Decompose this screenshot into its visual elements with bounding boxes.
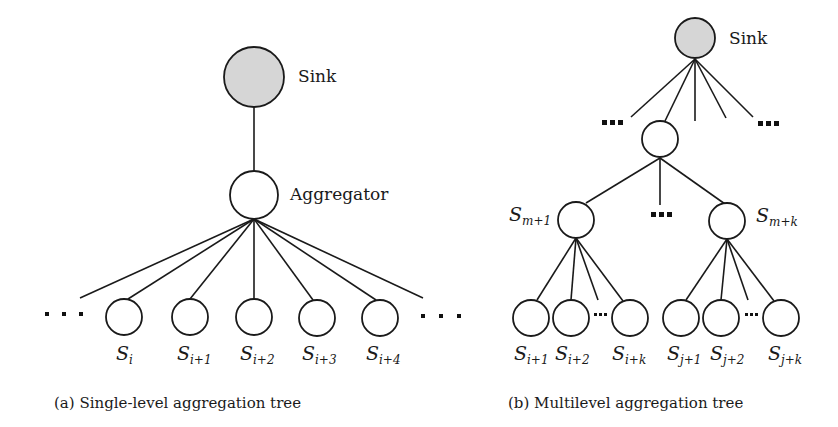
sensor-node-si1	[172, 299, 208, 335]
label-b-sik: Si+k	[612, 342, 646, 367]
leaf-sik	[612, 300, 648, 336]
edge-sink-intermediate	[665, 59, 695, 121]
label-b-si2: Si+2	[555, 342, 590, 367]
edge-aggregator-si	[128, 219, 254, 299]
aggregator-label: Aggregator	[289, 184, 389, 204]
sensor-node-si2	[236, 299, 272, 335]
edge-sm1-partial	[576, 238, 598, 300]
label-smk: Sm+k	[756, 204, 798, 229]
edge-aggregator-left-outer	[80, 219, 254, 298]
ellipsis-leaves-right	[745, 313, 758, 316]
leaf-sj2	[703, 300, 739, 336]
edge-sink-right1	[695, 59, 726, 118]
ellipsis-leaves-left	[594, 313, 607, 316]
label-si3: Si+3	[302, 342, 337, 367]
label-b-sj2: Sj+2	[710, 342, 744, 367]
multilevel-tree: Sink Sm+1 Sm+k Si+1 Si+2 Si+k Sj+1 Sj+2 …	[508, 18, 802, 412]
ellipsis-sink-left	[602, 120, 623, 125]
label-si2: Si+2	[240, 342, 275, 367]
label-b-sjk: Sj+k	[768, 342, 802, 367]
edge-smk-partial	[727, 239, 748, 300]
ellipsis-left	[45, 312, 83, 316]
aggregator-node	[230, 171, 278, 219]
ellipsis-right	[421, 314, 461, 318]
ellipsis-cluster-heads	[651, 212, 672, 217]
sensor-node-si4	[362, 300, 398, 336]
edge-aggregator-si3	[254, 219, 313, 300]
label-b-sj1: Sj+1	[667, 342, 701, 367]
edge-intermediate-smk	[660, 158, 725, 204]
intermediate-node	[642, 121, 678, 157]
sink-node-b	[675, 18, 715, 58]
edge-smk-sj1	[686, 239, 727, 300]
edge-smk-sjk	[727, 239, 774, 301]
label-sm1: Sm+1	[509, 203, 551, 228]
leaf-si1	[513, 300, 549, 336]
label-si: Si	[116, 342, 133, 367]
leaf-si2	[553, 300, 589, 336]
edge-aggregator-si4	[254, 219, 376, 300]
sink-label-b: Sink	[729, 28, 768, 48]
edge-intermediate-sm1	[586, 158, 660, 203]
label-b-si1: Si+1	[514, 342, 549, 367]
sensor-node-si	[106, 299, 142, 335]
label-si4: Si+4	[366, 342, 401, 367]
edge-smk-sj2	[721, 239, 727, 300]
edge-sm1-si1	[537, 238, 576, 300]
edge-sm1-sik	[576, 238, 623, 301]
single-level-tree: Sink Aggregator Si Si+1 Si+2 Si+3 Si+4 (…	[45, 47, 461, 412]
edge-sink-right-outer	[695, 59, 753, 117]
leaf-sjk	[763, 300, 799, 336]
edge-aggregator-si1	[190, 219, 254, 299]
aggregation-tree-figure: Sink Aggregator Si Si+1 Si+2 Si+3 Si+4 (…	[0, 0, 838, 427]
ellipsis-sink-right	[758, 121, 779, 126]
sensor-node-si3	[299, 300, 335, 336]
cluster-head-sm1	[558, 202, 594, 238]
edge-sm1-si2	[571, 238, 576, 300]
caption-b: (b) Multilevel aggregation tree	[508, 394, 743, 412]
edge-aggregator-right-outer	[254, 219, 423, 298]
leaf-sj1	[663, 300, 699, 336]
sink-label: Sink	[298, 66, 337, 86]
label-si1: Si+1	[177, 342, 212, 367]
caption-a: (a) Single-level aggregation tree	[54, 394, 301, 412]
sink-node	[224, 47, 284, 107]
edge-sink-left-outer	[631, 59, 695, 117]
cluster-head-smk	[709, 203, 745, 239]
